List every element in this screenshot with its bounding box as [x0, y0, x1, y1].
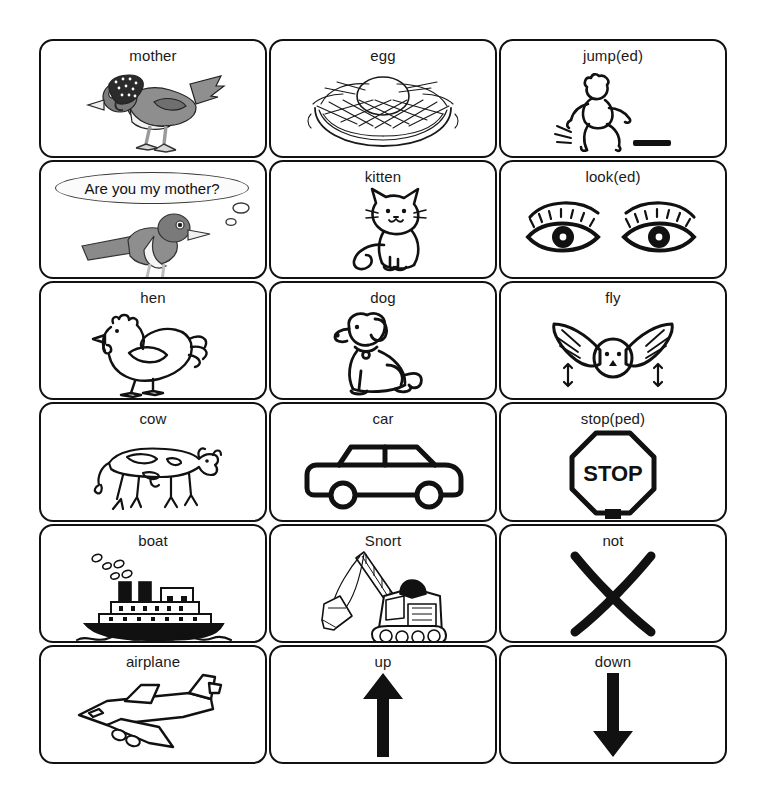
card-cell: Snort: [268, 523, 498, 644]
pair-of-eyes-icon: [518, 191, 708, 271]
dog-icon: [313, 305, 453, 400]
card-dog[interactable]: dog: [269, 281, 497, 400]
card-cell: fly: [498, 280, 728, 401]
card-art: [41, 305, 265, 400]
card-egg[interactable]: egg: [269, 39, 497, 158]
card-jumped[interactable]: jump(ed): [499, 39, 727, 158]
card-art: Are you my mother?: [41, 196, 265, 279]
card-art: [271, 63, 495, 156]
card-kitten[interactable]: kitten: [269, 160, 497, 279]
stop-sign-icon: STOP: [558, 427, 668, 519]
card-cell: kitten: [268, 159, 498, 280]
card-label: up: [375, 654, 392, 669]
card-up[interactable]: up: [269, 645, 497, 764]
card-label: kitten: [365, 169, 401, 184]
cat-icon: [328, 185, 438, 277]
card-cell: down: [498, 644, 728, 765]
card-label: look(ed): [586, 169, 641, 184]
card-airplane[interactable]: airplane: [39, 645, 267, 764]
card-cell: not: [498, 523, 728, 644]
bird-with-bonnet-icon: [78, 64, 228, 156]
speech-bubble-text: Are you my mother?: [84, 180, 219, 197]
card-art: [501, 548, 725, 641]
picture-card-board: mother: [38, 38, 728, 765]
card-car[interactable]: car: [269, 402, 497, 521]
stop-sign-text: STOP: [583, 461, 643, 486]
card-down[interactable]: down: [499, 645, 727, 764]
card-art: STOP: [501, 426, 725, 519]
card-label: dog: [370, 290, 395, 305]
card-art: [501, 184, 725, 277]
card-cell: car: [268, 401, 498, 522]
card-cell: mother: [38, 38, 268, 159]
card-cell: airplane: [38, 644, 268, 765]
card-label: car: [372, 411, 393, 426]
card-not[interactable]: not: [499, 524, 727, 643]
hen-icon: [83, 305, 223, 400]
card-label: mother: [129, 48, 176, 63]
card-label: egg: [370, 48, 395, 63]
sign-post: [605, 509, 621, 519]
card-label: boat: [138, 533, 168, 548]
ground-line: [633, 140, 671, 146]
card-hen[interactable]: hen: [39, 281, 267, 400]
card-label: fly: [605, 290, 620, 305]
cow-icon: [73, 429, 233, 517]
card-art: [41, 548, 265, 643]
card-cell: egg: [268, 38, 498, 159]
card-stopped[interactable]: stop(ped) STOP: [499, 402, 727, 521]
card-art: [271, 426, 495, 519]
card-art: [41, 63, 265, 156]
card-art: [271, 305, 495, 400]
card-label: down: [595, 654, 631, 669]
card-art: [501, 63, 725, 156]
steam-shovel-icon: [308, 548, 458, 643]
card-cell: hen: [38, 280, 268, 401]
card-cell: Are you my mother?: [38, 159, 268, 280]
baby-bird-icon: [58, 202, 248, 279]
card-cow[interactable]: cow: [39, 402, 267, 521]
card-label: not: [602, 533, 623, 548]
card-art: [41, 426, 265, 519]
airplane-icon: [63, 671, 243, 759]
card-snort[interactable]: Snort: [269, 524, 497, 643]
card-art: [501, 669, 725, 762]
card-are-you-my-mother[interactable]: Are you my mother?: [39, 160, 267, 279]
card-label: hen: [140, 290, 165, 305]
card-art: [41, 669, 265, 762]
egg-in-nest-icon: [303, 68, 463, 152]
card-cell: dog: [268, 280, 498, 401]
card-fly[interactable]: fly: [499, 281, 727, 400]
card-cell: cow: [38, 401, 268, 522]
card-art: [271, 184, 495, 277]
card-label: cow: [140, 411, 167, 426]
card-looked[interactable]: look(ed): [499, 160, 727, 279]
x-cross-icon: [563, 548, 663, 640]
card-mother[interactable]: mother: [39, 39, 267, 158]
card-cell: look(ed): [498, 159, 728, 280]
speech-bubble: Are you my mother?: [55, 172, 249, 204]
card-label: Snort: [365, 533, 401, 548]
steamship-icon: [63, 548, 243, 643]
car-icon: [293, 431, 473, 515]
jumping-person-icon: [533, 64, 693, 156]
card-art: [271, 669, 495, 762]
card-label: jump(ed): [583, 48, 643, 63]
card-cell: up: [268, 644, 498, 765]
card-label: airplane: [126, 654, 180, 669]
up-arrow-icon: [355, 669, 411, 761]
card-boat[interactable]: boat: [39, 524, 267, 643]
card-cell: boat: [38, 523, 268, 644]
card-label: stop(ped): [581, 411, 645, 426]
card-art: [271, 548, 495, 643]
flying-bird-icon: [528, 306, 698, 398]
card-art: [501, 305, 725, 398]
card-cell: jump(ed): [498, 38, 728, 159]
down-arrow-icon: [585, 669, 641, 761]
card-cell: stop(ped) STOP: [498, 401, 728, 522]
